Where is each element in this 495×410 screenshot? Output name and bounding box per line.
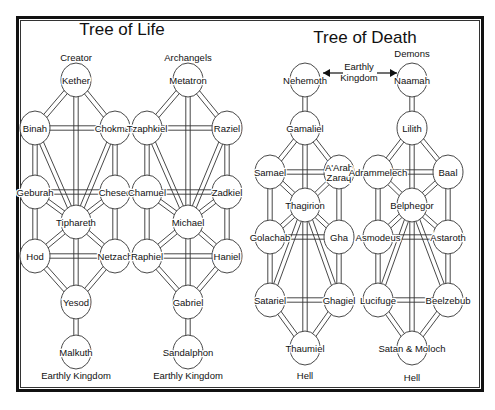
svg-text:Michael: Michael	[172, 217, 205, 228]
node-kether: Kether	[61, 63, 91, 97]
svg-text:Samael: Samael	[254, 167, 286, 178]
svg-text:Tiphareth: Tiphareth	[56, 217, 96, 228]
svg-text:Lucifuge: Lucifuge	[360, 295, 396, 306]
trees-diagram: KetherBinahChokmahGeburahChesedTiphareth…	[0, 0, 495, 410]
node-sandalphon: Sandalphon	[163, 335, 214, 369]
node-lucifuge: Lucifuge	[360, 283, 396, 317]
svg-text:Beelzebub: Beelzebub	[426, 295, 471, 306]
svg-text:Sandalphon: Sandalphon	[163, 347, 214, 358]
svg-text:Binah: Binah	[23, 123, 47, 134]
node-golachab: Golachab	[250, 220, 291, 254]
node-nehemoth: Nehemoth	[283, 63, 327, 97]
svg-text:Naamah: Naamah	[394, 75, 430, 86]
svg-text:Golachab: Golachab	[250, 232, 291, 243]
svg-text:Lilith: Lilith	[402, 123, 422, 134]
svg-text:Metatron: Metatron	[169, 75, 207, 86]
svg-text:Adrammelech: Adrammelech	[349, 167, 408, 178]
svg-text:Gha: Gha	[330, 232, 349, 243]
node-haniel: Haniel	[212, 239, 242, 273]
node-yesod: Yesod	[61, 285, 91, 319]
svg-text:Astaroth: Astaroth	[430, 232, 465, 243]
svg-text:Chamuel: Chamuel	[128, 187, 166, 198]
svg-text:Malkuth: Malkuth	[59, 347, 92, 358]
node-raphiel: Raphiel	[131, 239, 163, 273]
node-binah: Binah	[20, 111, 50, 145]
svg-text:Nehemoth: Nehemoth	[283, 75, 327, 86]
node-baal: Baal	[433, 155, 463, 189]
node-zadkiel: Zadkiel	[212, 175, 243, 209]
svg-text:Belphegor: Belphegor	[390, 200, 433, 211]
svg-text:Geburah: Geburah	[17, 187, 54, 198]
node-satan-moloch: Satan & Moloch	[378, 331, 445, 365]
svg-text:Tzaphkiel: Tzaphkiel	[127, 123, 168, 134]
node-satariel: Satariel	[254, 283, 286, 317]
node-gha: Gha	[324, 220, 354, 254]
node-tzaphkiel: Tzaphkiel	[127, 111, 168, 145]
node-gamaliel: Gamaliel	[286, 111, 324, 145]
svg-text:Gamaliel: Gamaliel	[286, 123, 324, 134]
svg-text:Zadkiel: Zadkiel	[212, 187, 243, 198]
node-naamah: Naamah	[394, 63, 430, 97]
svg-text:Kether: Kether	[62, 75, 90, 86]
svg-text:Thagirion: Thagirion	[285, 200, 325, 211]
node-lilith: Lilith	[397, 111, 427, 145]
node-thaumiel: Thaumiel	[285, 331, 324, 365]
node-hod: Hod	[20, 239, 50, 273]
node-thagirion: Thagirion	[285, 188, 325, 222]
svg-text:Raphiel: Raphiel	[131, 251, 163, 262]
svg-text:Yesod: Yesod	[63, 297, 89, 308]
svg-text:Chesed: Chesed	[99, 187, 132, 198]
node-chamuel: Chamuel	[128, 175, 166, 209]
svg-text:Baal: Baal	[438, 167, 457, 178]
svg-text:Zaraq: Zaraq	[327, 172, 352, 183]
svg-text:Hod: Hod	[26, 251, 43, 262]
node-raziel: Raziel	[212, 111, 242, 145]
node-tiphareth: Tiphareth	[56, 205, 96, 239]
svg-text:Thaumiel: Thaumiel	[285, 343, 324, 354]
svg-text:Raziel: Raziel	[214, 123, 240, 134]
svg-text:Satan & Moloch: Satan & Moloch	[378, 343, 445, 354]
node-gabriel: Gabriel	[173, 285, 204, 319]
svg-text:Asmodeus: Asmodeus	[356, 232, 401, 243]
node-astaroth: Astaroth	[430, 220, 465, 254]
svg-text:Haniel: Haniel	[214, 251, 241, 262]
node-malkuth: Malkuth	[59, 335, 92, 369]
svg-text:Ghagiel: Ghagiel	[323, 295, 356, 306]
svg-text:Satariel: Satariel	[254, 295, 286, 306]
node-adrammelech: Adrammelech	[349, 155, 408, 189]
node-beelzebub: Beelzebub	[426, 283, 471, 317]
svg-text:Gabriel: Gabriel	[173, 297, 204, 308]
svg-text:Netzach: Netzach	[98, 251, 133, 262]
node-samael: Samael	[254, 155, 286, 189]
node-netzach: Netzach	[98, 239, 133, 273]
